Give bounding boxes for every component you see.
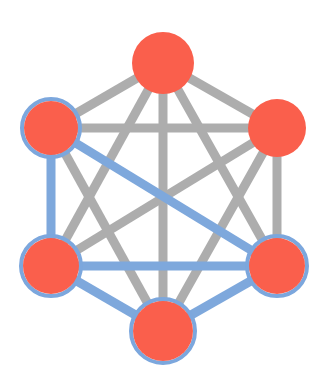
- graph-node-bottom-right[interactable]: [247, 236, 307, 296]
- graph-node-bottom[interactable]: [131, 299, 195, 363]
- graph-node-bottom-left[interactable]: [21, 236, 81, 296]
- graph-node-top-left[interactable]: [22, 99, 80, 157]
- graph-canvas: [0, 0, 326, 389]
- graph-node-circle-bottom-right[interactable]: [249, 238, 305, 294]
- graph-node-top-right[interactable]: [248, 99, 306, 157]
- edges-layer: [51, 63, 277, 331]
- graph-node-circle-top-left[interactable]: [24, 101, 78, 155]
- graph-node-circle-top[interactable]: [132, 32, 194, 94]
- graph-node-top[interactable]: [132, 32, 194, 94]
- graph-figure: [0, 0, 326, 389]
- graph-node-circle-bottom-left[interactable]: [23, 238, 79, 294]
- graph-node-circle-top-right[interactable]: [248, 99, 306, 157]
- graph-node-circle-bottom[interactable]: [133, 301, 193, 361]
